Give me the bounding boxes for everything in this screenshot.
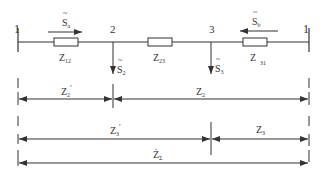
dim-z3p-label: Z3′ <box>110 123 121 137</box>
svg-text:S2: S2 <box>117 64 126 76</box>
load-s2-label: S2 ~ <box>117 56 126 76</box>
impedance-z31-label: Z31 <box>250 52 266 66</box>
ring-network-diagram: 1 1 Z12 Z23 Z31 2 S2 ~ 3 S3 ~ Sa ~ Sb ~ <box>0 0 323 175</box>
svg-text:~: ~ <box>253 8 258 17</box>
impedance-z23-label: Z23 <box>153 52 165 64</box>
right-bus-label: 1 <box>303 22 309 36</box>
flow-sb-label: Sb ~ <box>252 8 261 28</box>
node-2-label: 2 <box>110 23 116 35</box>
svg-text:Sa: Sa <box>62 17 71 29</box>
impedance-z31-box <box>243 38 267 46</box>
svg-text:Z31: Z31 <box>250 52 266 66</box>
svg-text:Sb: Sb <box>252 16 261 28</box>
dim-z3-label: Z3 <box>256 124 265 136</box>
svg-text:Z2′: Z2′ <box>61 84 72 98</box>
svg-text:~: ~ <box>118 56 123 65</box>
impedance-z12-box <box>54 38 78 46</box>
svg-text:ŻΣ: ŻΣ <box>153 149 163 161</box>
svg-text:~: ~ <box>63 9 68 18</box>
svg-text:Z12: Z12 <box>59 52 71 64</box>
load-s3-label: S3 ~ <box>215 55 224 75</box>
svg-text:~: ~ <box>216 55 221 64</box>
node-3-label: 3 <box>209 23 215 35</box>
dim-zsum-label: ŻΣ <box>153 149 163 161</box>
impedance-z12-label: Z12 <box>59 52 71 64</box>
svg-text:Z3′: Z3′ <box>110 123 121 137</box>
left-bus-label: 1 <box>14 22 20 36</box>
dim-z2p-label: Z2′ <box>61 84 72 98</box>
svg-text:Z23: Z23 <box>153 52 165 64</box>
svg-text:S3: S3 <box>215 63 224 75</box>
dim-z2-label: Z2 <box>196 86 205 98</box>
svg-text:Z2: Z2 <box>196 86 205 98</box>
svg-text:Z3: Z3 <box>256 124 265 136</box>
flow-sa-label: Sa ~ <box>62 9 71 29</box>
impedance-z23-box <box>148 38 172 46</box>
